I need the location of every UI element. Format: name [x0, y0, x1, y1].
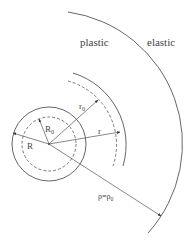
r0-arrow: [49, 100, 98, 144]
R0-label: R0: [45, 124, 54, 135]
r-label: r: [98, 126, 101, 136]
deformed-radius-arc: [73, 73, 126, 166]
initial-radius-arc: [68, 81, 117, 166]
r0-label: r0: [79, 101, 85, 112]
R-label: R: [27, 141, 33, 151]
rho-label: ρ=ρ0: [98, 192, 114, 202]
rho-arrow: [49, 144, 161, 216]
plastic-elastic-zone-diagram: plastic elastic R R0 r0 r ρ=ρ0: [0, 0, 191, 247]
plastic-label: plastic: [80, 36, 109, 48]
elastic-label: elastic: [147, 36, 175, 48]
